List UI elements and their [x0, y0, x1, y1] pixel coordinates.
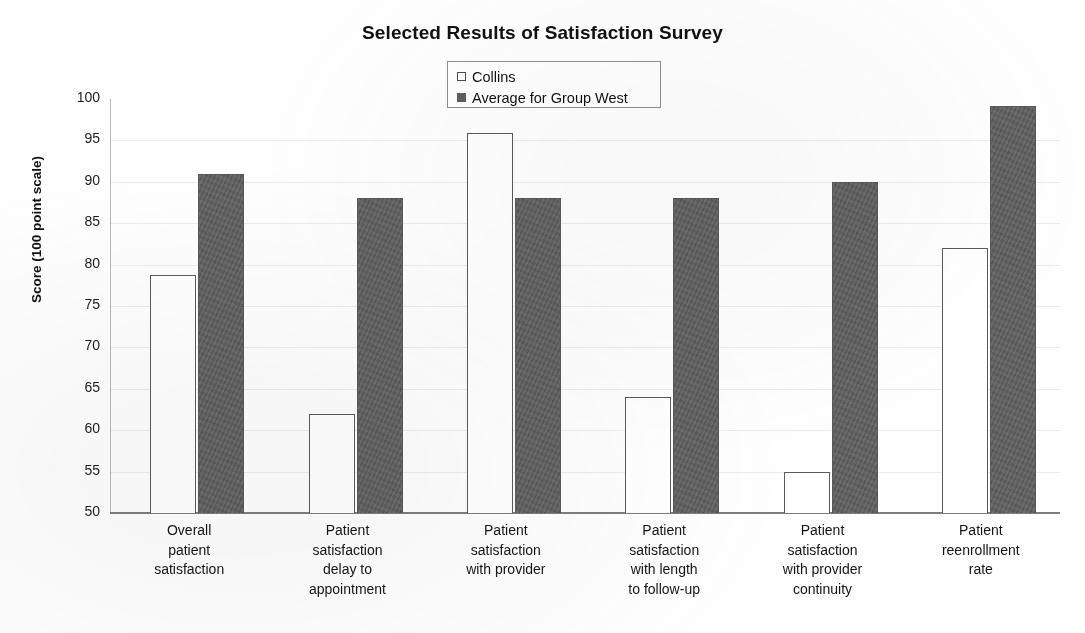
- satisfaction-survey-chart: Selected Results of Satisfaction Survey …: [0, 0, 1085, 633]
- bar-group: [150, 99, 244, 513]
- x-category-label-line: Patient: [268, 521, 426, 541]
- x-category-label-line: continuity: [743, 580, 901, 600]
- legend-swatch-collins-icon: [457, 72, 466, 81]
- y-tick-label: 65: [48, 379, 100, 395]
- x-category-label: Patientsatisfactionwith lengthto follow-…: [585, 521, 743, 599]
- y-gridline: [110, 306, 1060, 307]
- bar-group: [309, 99, 403, 513]
- x-category-label: Patientsatisfactiondelay toappointment: [268, 521, 426, 599]
- x-axis-line: [110, 512, 1060, 514]
- x-category-label-line: with provider: [427, 560, 585, 580]
- y-tick-label: 60: [48, 420, 100, 436]
- y-gridline: [110, 347, 1060, 348]
- y-axis-title: Score (100 point scale): [29, 130, 44, 330]
- bar-average-group-west: [990, 106, 1036, 513]
- x-category-label-line: with provider: [743, 560, 901, 580]
- y-gridline: [110, 223, 1060, 224]
- bar-group: [942, 99, 1036, 513]
- y-tick-label: 75: [48, 296, 100, 312]
- x-category-label-line: appointment: [268, 580, 426, 600]
- bar-group: [784, 99, 878, 513]
- x-category-label: Patientreenrollmentrate: [902, 521, 1060, 580]
- y-gridline: [110, 140, 1060, 141]
- y-gridline: [110, 430, 1060, 431]
- x-category-label-line: rate: [902, 560, 1060, 580]
- x-category-label-line: Overall: [110, 521, 268, 541]
- x-category-label-line: satisfaction: [743, 541, 901, 561]
- y-tick-label: 55: [48, 462, 100, 478]
- x-axis-category-labels: OverallpatientsatisfactionPatientsatisfa…: [110, 521, 1060, 621]
- x-category-label-line: satisfaction: [268, 541, 426, 561]
- x-category-label-line: to follow-up: [585, 580, 743, 600]
- bar-collins: [309, 414, 355, 513]
- x-category-label: Overallpatientsatisfaction: [110, 521, 268, 580]
- x-category-label-line: Patient: [585, 521, 743, 541]
- x-category-label: Patientsatisfactionwith providercontinui…: [743, 521, 901, 599]
- bar-collins: [625, 397, 671, 513]
- bar-collins: [942, 248, 988, 513]
- legend-item-collins: Collins: [457, 66, 660, 87]
- chart-title: Selected Results of Satisfaction Survey: [0, 22, 1085, 44]
- x-category-label-line: with length: [585, 560, 743, 580]
- y-gridline: [110, 472, 1060, 473]
- bar-group: [625, 99, 719, 513]
- y-tick-label: 95: [48, 130, 100, 146]
- x-category-label-line: reenrollment: [902, 541, 1060, 561]
- y-tick-label: 100: [48, 89, 100, 105]
- bar-average-group-west: [673, 198, 719, 513]
- bar-average-group-west: [832, 182, 878, 513]
- x-category-label-line: Patient: [743, 521, 901, 541]
- legend-label-collins: Collins: [472, 69, 516, 85]
- y-tick-label: 90: [48, 172, 100, 188]
- x-category-label-line: satisfaction: [585, 541, 743, 561]
- bar-average-group-west: [515, 198, 561, 513]
- y-tick-label: 80: [48, 255, 100, 271]
- y-tick-label: 50: [48, 503, 100, 519]
- plot-area: [110, 99, 1060, 513]
- x-category-label-line: Patient: [427, 521, 585, 541]
- x-category-label-line: satisfaction: [427, 541, 585, 561]
- bar-average-group-west: [357, 198, 403, 513]
- bar-collins: [784, 472, 830, 513]
- x-category-label: Patientsatisfactionwith provider: [427, 521, 585, 580]
- bar-collins: [467, 133, 513, 513]
- y-gridline: [110, 389, 1060, 390]
- bar-average-group-west: [198, 174, 244, 513]
- x-category-label-line: satisfaction: [110, 560, 268, 580]
- x-category-label-line: patient: [110, 541, 268, 561]
- y-tick-label: 70: [48, 337, 100, 353]
- bar-collins: [150, 275, 196, 513]
- y-gridline: [110, 182, 1060, 183]
- bar-group: [467, 99, 561, 513]
- y-tick-label: 85: [48, 213, 100, 229]
- x-category-label-line: delay to: [268, 560, 426, 580]
- x-category-label-line: Patient: [902, 521, 1060, 541]
- y-gridline: [110, 265, 1060, 266]
